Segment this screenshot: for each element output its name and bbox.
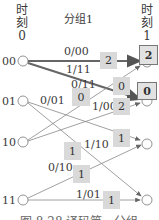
branch-metric-00-01: 0	[113, 77, 130, 95]
node-t1-11	[142, 195, 152, 205]
state-label-10: 10	[2, 137, 16, 148]
trellis-diagram: 时 刻 0 分组1 时 刻 1 00 01 10 11 0/00 1/11 0/…	[0, 0, 159, 220]
branch-metric-01-11: 1	[64, 142, 81, 160]
edge-label-01-10: 0/01	[40, 95, 65, 106]
node-t1-10	[142, 139, 152, 149]
branch-metric-01-10: 1	[113, 129, 130, 147]
edge-label-00-00: 0/00	[64, 46, 89, 57]
branch-metric-00-00: 2	[100, 52, 117, 69]
time-0-index: 0	[14, 30, 30, 43]
state-label-11: 11	[2, 195, 16, 206]
path-metric-t1-01: 0	[137, 82, 157, 100]
node-t0-00	[18, 56, 28, 66]
branch-metric-11-10: 1	[73, 165, 90, 183]
node-t0-10	[18, 137, 28, 147]
state-label-01: 01	[2, 96, 16, 107]
time-1-index: 1	[139, 30, 155, 43]
edge-label-00-01: 1/11	[66, 64, 91, 75]
time-1-label: 时 刻 1	[139, 4, 155, 43]
path-metric-t1-00: 2	[139, 45, 158, 65]
node-t0-11	[18, 195, 28, 205]
edge-label-11-11: 1/01	[76, 189, 101, 200]
branch-metric-10-00: 0	[72, 88, 90, 106]
branch-metric-10-01: 2	[113, 98, 130, 115]
state-label-00: 00	[2, 56, 16, 67]
node-t0-01	[18, 96, 28, 106]
edge-label-01-11: 1/10	[84, 139, 109, 150]
group-label: 分组1	[64, 14, 93, 25]
figure-caption: 图 8.28 译码第一分组	[20, 212, 138, 220]
time-0-label: 时 刻 0	[14, 4, 30, 43]
branch-metric-11-11: 1	[103, 191, 120, 209]
edge-label-11-10: 0/10	[48, 162, 73, 173]
